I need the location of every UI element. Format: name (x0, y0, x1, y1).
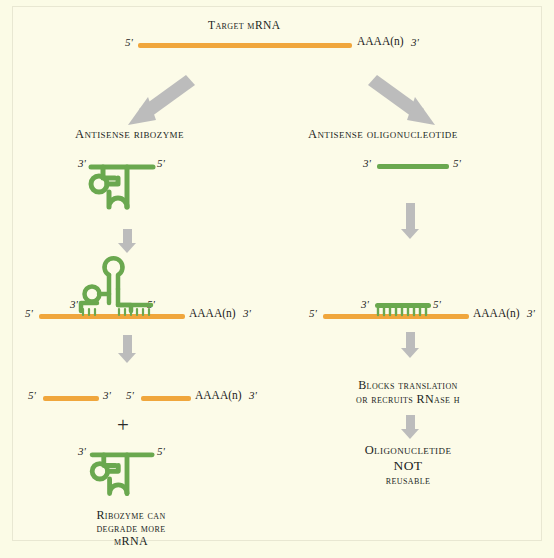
fragment2-polya-label: AAAA(n) (195, 389, 242, 402)
target-mrna-5prime-label: 5' (125, 36, 133, 48)
right-outcome-line-2: or recruits RNase h (290, 393, 526, 406)
right-conclusion-line-1: Oligonucletide (290, 443, 526, 457)
right-arrow-2 (401, 332, 419, 358)
cleaved-fragment-1 (43, 396, 99, 401)
target-mrna-title: Target mRNA (208, 19, 280, 32)
branch-arrow-right (368, 75, 438, 127)
left-conclusion-line-3: mRNA (13, 535, 249, 548)
regenerated-ribozyme-structure (87, 450, 167, 510)
complex-mrna-polya-label: AAAA(n) (189, 307, 236, 320)
right-outcome-line-1: Blocks translation (290, 379, 526, 392)
free-oligo-5prime-label: 5' (453, 157, 461, 169)
right-conclusion-line-2: NOT (290, 458, 526, 473)
right-conclusion-line-3: reusable (290, 474, 526, 487)
plus-symbol: + (117, 414, 129, 438)
diagram-panel: Target mRNA 5' AAAA(n) 3' Antisense ribo… (12, 6, 542, 541)
right-branch-heading: Antisense oligonucleotide (308, 127, 458, 141)
left-arrow-2 (118, 335, 136, 363)
oligo-complex-3prime-label: 3' (361, 298, 369, 310)
complex-mrna-3prime-label: 3' (243, 307, 251, 319)
right-arrow-1 (401, 203, 419, 239)
left-branch-heading: Antisense ribozyme (75, 127, 184, 141)
target-mrna-polya-label: AAAA(n) (357, 35, 404, 48)
fragment1-5prime-label: 5' (28, 389, 36, 401)
target-mrna-3prime-label: 3' (411, 36, 419, 48)
oligo-complex-polya-label: AAAA(n) (473, 307, 520, 320)
fragment2-5prime-label: 5' (126, 389, 134, 401)
target-mrna-strand (138, 43, 352, 48)
oligo-complex-mrna-3prime-label: 3' (527, 307, 535, 319)
oligo-complex-mrna-5prime-label: 5' (309, 307, 317, 319)
free-ribozyme-3prime-label: 3' (78, 157, 86, 169)
branch-arrow-left (126, 75, 196, 127)
free-oligo-3prime-label: 3' (363, 157, 371, 169)
free-oligo-strand (377, 164, 449, 169)
fragment1-3prime-label: 3' (103, 389, 111, 401)
complex-mrna-5prime-label: 5' (25, 307, 33, 319)
bound-ribozyme-structure (79, 259, 163, 317)
left-arrow-1 (118, 229, 136, 253)
right-arrow-3 (401, 415, 419, 439)
fragment2-3prime-label: 3' (249, 389, 257, 401)
bound-oligo-structure (375, 303, 439, 321)
cleaved-fragment-2 (141, 396, 191, 401)
diagram-canvas: Target mRNA 5' AAAA(n) 3' Antisense ribo… (0, 0, 554, 558)
complex-ribozyme-3prime-label: 3' (70, 298, 78, 310)
free-ribozyme-structure (87, 162, 167, 224)
regenerated-ribozyme-3prime-label: 3' (78, 445, 86, 457)
